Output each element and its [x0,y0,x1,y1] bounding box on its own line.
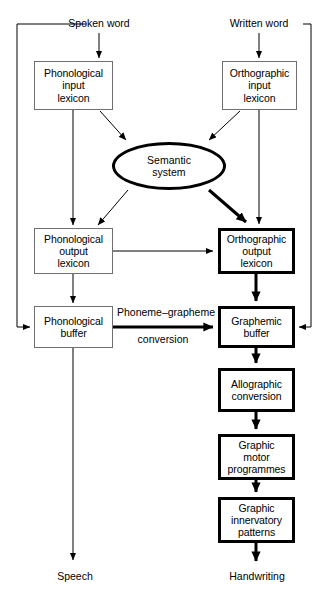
edge-phon-input-to-semantic [100,111,126,140]
node-label: Graphicinnervatorypatterns [229,502,284,539]
edge-label-phoneme-grapheme: Phoneme–grapheme [117,306,215,319]
node-label: Phonologicalbuffer [42,315,105,339]
edge-written-bypass-right [299,24,311,327]
node-orthographic-output-lexicon[interactable]: Orthographicoutputlexicon [218,228,295,274]
node-phonological-output-lexicon[interactable]: Phonologicaloutputlexicon [34,228,113,274]
input-label-written-word: Written word [230,17,289,30]
node-phonological-buffer[interactable]: Phonologicalbuffer [34,306,113,348]
edge-orth-input-to-semantic [209,111,240,140]
node-semantic-system[interactable]: Semanticsystem [112,142,226,190]
output-label-handwriting: Handwriting [229,570,284,583]
node-label: Allographicconversion [229,378,284,402]
node-label: Phonologicaloutputlexicon [42,233,105,270]
input-label-spoken-word: Spoken word [68,17,129,30]
node-graphic-innervatory-patterns[interactable]: Graphicinnervatorypatterns [218,497,295,543]
edge-semantic-to-phon-output [98,190,128,225]
node-label: Semanticsystem [147,154,191,178]
node-label: Graphicmotorprogrammes [226,439,288,476]
node-phonological-input-lexicon[interactable]: Phonologicalinputlexicon [34,61,113,110]
node-label: Phonologicalinputlexicon [42,67,105,104]
edge-label-conversion: conversion [138,333,189,346]
node-allographic-conversion[interactable]: Allographicconversion [218,368,295,412]
node-label: Orthographicinputlexicon [228,67,292,104]
output-label-speech: Speech [57,570,93,583]
edge-semantic-to-orth-output [209,190,246,222]
node-graphemic-buffer[interactable]: Graphemicbuffer [218,306,295,348]
node-label: Graphemicbuffer [229,315,283,339]
node-label: Orthographicoutputlexicon [225,233,289,270]
node-orthographic-input-lexicon[interactable]: Orthographicinputlexicon [222,61,297,110]
cognitive-model-diagram: Spoken word Written word Phonologicalinp… [0,0,325,591]
node-graphic-motor-programmes[interactable]: Graphicmotorprogrammes [218,434,295,480]
